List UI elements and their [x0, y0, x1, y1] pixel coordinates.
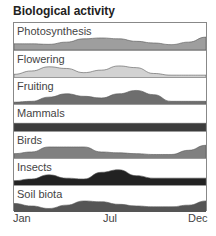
band-photosynthesis: Photosynthesis — [14, 23, 206, 50]
band-mammals: Mammals — [14, 104, 206, 131]
band-label: Insects — [17, 161, 52, 173]
chart-title: Biological activity — [13, 4, 115, 18]
band-label: Mammals — [17, 107, 65, 119]
band-insects: Insects — [14, 158, 206, 185]
x-tick-jan: Jan — [13, 212, 31, 224]
band-area — [14, 132, 206, 158]
band-fruiting: Fruiting — [14, 77, 206, 104]
band-label: Fruiting — [17, 80, 54, 92]
band-label: Photosynthesis — [17, 25, 92, 37]
band-flowering: Flowering — [14, 50, 206, 77]
x-tick-jul: Jul — [103, 212, 117, 224]
band-soil-biota: Soil biota — [14, 185, 206, 212]
band-label: Soil biota — [17, 188, 62, 200]
band-birds: Birds — [14, 131, 206, 158]
x-tick-dec: Dec — [188, 212, 208, 224]
band-label: Birds — [17, 134, 42, 146]
band-label: Flowering — [17, 53, 65, 65]
activity-chart: PhotosynthesisFloweringFruitingMammalsBi… — [13, 22, 207, 211]
